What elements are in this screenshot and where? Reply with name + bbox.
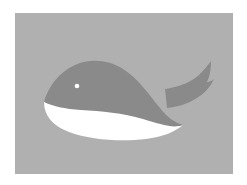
artwork-alt-text: Flat illustration of a grey whale with a… [0,0,1,1]
whale-eye-icon [75,84,80,89]
illustration-root: Flat illustration of a grey whale with a… [0,0,247,185]
whale-illustration-svg [15,13,233,174]
artwork-panel [15,13,233,174]
